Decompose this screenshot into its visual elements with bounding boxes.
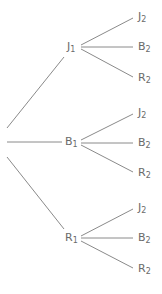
node-r1-r2: R2: [138, 263, 151, 278]
node-subscript: 1: [70, 45, 75, 54]
node-letter: B: [65, 135, 73, 148]
branch-r1-j2: [81, 209, 133, 236]
node-j1-r2: R2: [138, 72, 151, 87]
node-subscript: 2: [141, 206, 146, 215]
node-j1: J1: [67, 41, 75, 56]
branch-b1-r2: [81, 145, 133, 172]
node-b1-j2: J2: [138, 107, 146, 122]
node-subscript: 2: [146, 141, 151, 150]
node-subscript: 2: [146, 236, 151, 245]
node-subscript: 2: [141, 111, 146, 120]
node-letter: R: [65, 231, 73, 244]
node-subscript: 2: [146, 267, 151, 276]
node-letter: R: [138, 166, 146, 179]
node-subscript: 2: [146, 76, 151, 85]
node-b1-b2: B2: [138, 137, 151, 152]
branch-j1-r2: [81, 49, 133, 77]
node-r1-j2: J2: [138, 202, 146, 217]
node-letter: B: [138, 136, 146, 149]
branch-b1-j2: [81, 114, 133, 140]
node-r1-b2: B2: [138, 232, 151, 247]
node-subscript: 1: [73, 140, 78, 149]
node-subscript: 2: [141, 15, 146, 24]
branch-root-r1: [7, 157, 64, 229]
node-b1-r2: R2: [138, 167, 151, 182]
node-letter: R: [138, 262, 146, 275]
node-subscript: 1: [73, 236, 78, 245]
node-b1: B1: [65, 136, 78, 151]
node-subscript: 2: [146, 171, 151, 180]
node-letter: B: [138, 231, 146, 244]
node-r1: R1: [65, 232, 78, 247]
branch-j1-j2: [81, 18, 133, 45]
node-letter: R: [138, 71, 146, 84]
node-letter: B: [138, 40, 146, 53]
branch-root-j1: [7, 57, 64, 128]
node-j1-b2: B2: [138, 41, 151, 56]
branch-r1-r2: [81, 241, 133, 268]
node-j1-j2: J2: [138, 11, 146, 26]
node-subscript: 2: [146, 45, 151, 54]
